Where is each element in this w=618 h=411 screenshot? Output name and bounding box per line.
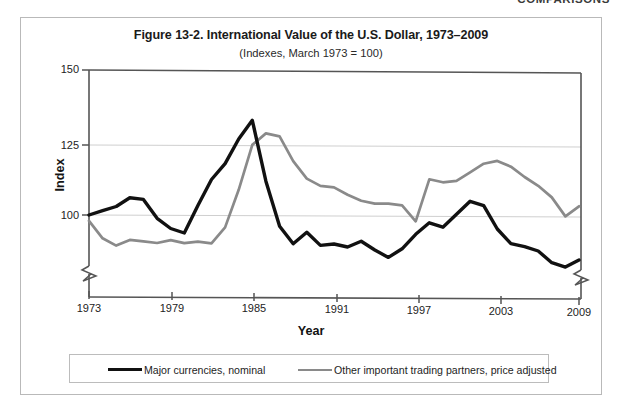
series-line-other-trading-partners xyxy=(89,133,579,245)
series-line-major-currencies xyxy=(89,120,579,267)
legend-label-major-currencies: Major currencies, nominal xyxy=(144,364,265,376)
gridlines xyxy=(89,145,581,217)
line-swatch-gray-icon xyxy=(298,369,332,371)
page-header-text: COMPARISONS xyxy=(517,0,610,5)
y-axis-break-right-icon xyxy=(574,270,588,285)
page-running-header: COMPARISONS xyxy=(0,0,618,12)
legend-label-other-trading-partners: Other important trading partners, price … xyxy=(334,364,557,376)
x-axis-title: Year xyxy=(21,324,601,338)
y-axis-ticks xyxy=(82,70,89,215)
line-swatch-black-icon xyxy=(108,368,142,371)
y-axis-break-icon xyxy=(82,266,96,281)
legend-item-other-trading-partners: Other important trading partners, price … xyxy=(298,355,557,384)
chart-plot-area xyxy=(21,18,603,348)
legend-item-major-currencies: Major currencies, nominal xyxy=(108,355,265,384)
figure-frame: Figure 13-2. International Value of the … xyxy=(20,17,602,395)
chart-legend: Major currencies, nominal Other importan… xyxy=(69,354,549,383)
